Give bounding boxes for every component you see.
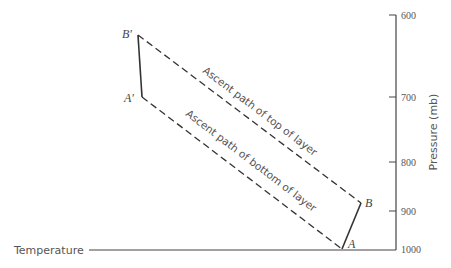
bottom-path-label: Ascent path of bottom of layer — [184, 107, 320, 214]
bottom-ascent-path — [142, 97, 342, 249]
point-label-b: B — [365, 196, 373, 210]
top-path-label: Ascent path of top of layer — [201, 64, 321, 158]
initial-layer-line — [138, 35, 142, 97]
pressure-axis: 600 700 800 900 1000 Pressure (mb) — [389, 10, 440, 255]
tick-label-600: 600 — [401, 10, 416, 21]
point-label-b-prime: B′ — [122, 27, 132, 41]
tick-label-900: 900 — [401, 206, 416, 217]
pressure-axis-title: Pressure (mb) — [427, 94, 440, 171]
point-label-a: A — [347, 237, 356, 251]
tick-label-1000: 1000 — [401, 244, 421, 255]
point-label-a-prime: A′ — [123, 91, 134, 105]
temperature-axis-label: Temperature — [13, 244, 84, 257]
layer-ascent-diagram: 600 700 800 900 1000 Pressure (mb) Tempe… — [0, 0, 451, 268]
tick-label-800: 800 — [401, 157, 416, 168]
tick-label-700: 700 — [401, 92, 416, 103]
